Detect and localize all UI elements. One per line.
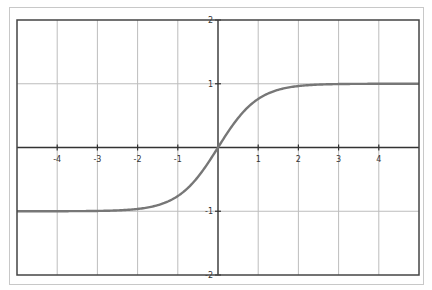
y-tick-label: -1 <box>205 207 213 216</box>
x-tick-label: 2 <box>296 155 301 164</box>
x-tick-label: 3 <box>336 155 341 164</box>
x-tick-label: -1 <box>174 155 182 164</box>
x-tick-label: 4 <box>376 155 381 164</box>
y-tick-label: 1 <box>208 80 213 89</box>
x-tick-label: -4 <box>53 155 61 164</box>
x-tick-label: -3 <box>93 155 101 164</box>
x-tick-label: 1 <box>256 155 261 164</box>
chart-canvas: -4-3-2-1123421-1-2 <box>0 0 432 290</box>
x-tick-label: -2 <box>134 155 142 164</box>
